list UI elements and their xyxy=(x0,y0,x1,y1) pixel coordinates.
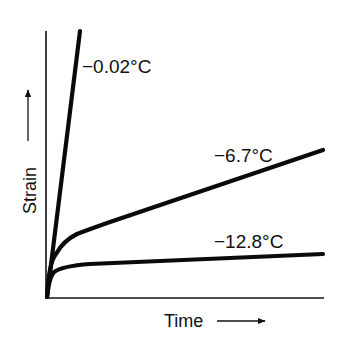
x-axis-title: Time xyxy=(164,311,203,331)
y-axis-title: Strain xyxy=(20,167,40,214)
series-label-minus-12-8c: −12.8°C xyxy=(214,231,283,252)
curve-minus-12-8c xyxy=(47,254,323,297)
series-label-minus-0-02c: −0.02°C xyxy=(82,56,151,77)
y-axis-title-group: Strain xyxy=(20,167,40,214)
series-label-minus-6-7c: −6.7°C xyxy=(214,145,273,166)
strain-time-chart: −0.02°C −6.7°C −12.8°C Strain Time xyxy=(0,0,348,351)
curve-minus-6-7c xyxy=(47,150,323,297)
